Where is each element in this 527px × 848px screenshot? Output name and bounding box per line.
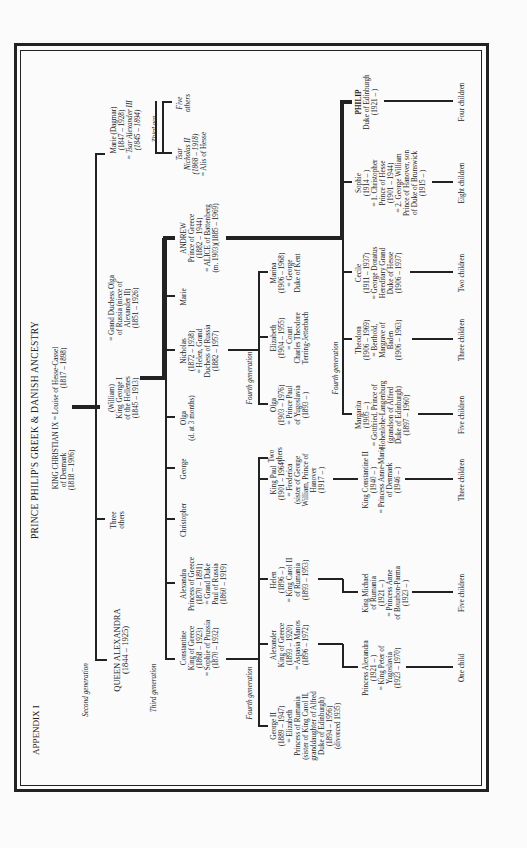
person-line: Nicholas II [184,132,192,176]
connector [165,519,175,521]
person-line: (1921 – ) [371,74,379,129]
person-line: (1889 – 1947) [278,691,286,760]
princess-alexandra-of-yugoslavia: Princess Alexandra (1921 – ) = King Pete… [362,640,402,695]
page-title: PRINCE PHILIP'S GREEK & DANISH ANCESTRY [31,321,39,539]
person-line: (sister of King Carol II, [302,691,310,760]
george-ii: George II (1889 – 1947) = Elizabeth Prin… [270,691,342,760]
person-line: Nicholas [180,324,188,377]
person-line: (1893 – ) [302,385,310,426]
person-line: (1882 – 1944) [196,203,204,272]
olga-infant: Olga (d. at 3 months) [180,395,196,441]
person-line: Tsar [176,132,184,176]
person-line: Three [110,511,118,529]
person-line: (1923 – ) [402,566,410,620]
person-line: (1851 – 1926) [132,275,140,341]
children-count: Four children [458,83,466,122]
person-line: = Helen, Grand [196,324,204,377]
connector [162,102,164,154]
person-line: Marie (Dagmar) [110,100,118,159]
connector [140,376,166,380]
person-line: (1893 – 1920) [286,620,294,670]
person-line: Hanover [310,453,318,506]
person-line: (1914 – ) [363,150,371,216]
connector [406,667,453,669]
connector [432,182,453,184]
christopher: Christopher [180,503,188,537]
connector [258,272,260,405]
connector [342,238,344,415]
king-george-i: (William) King George I of the Hellenes … [108,376,140,420]
children-count: Eight children [458,163,466,204]
person-line: (1894 – 1956) [326,691,334,760]
connector [165,350,175,352]
person-line: King of Greece [278,620,286,670]
connector-andrew-children [226,236,344,240]
person-line: (1845 – 1894) [134,100,142,159]
philip-duke-of-edinburgh: PHILIP Duke of Edinburgh (1921 – ) [355,74,379,129]
person-line: (1845 – 1913) [132,376,140,420]
cecile: Cecile (1911 – 1937) = George Donatus He… [355,247,403,300]
two-others: Two others [268,447,284,465]
person-line: (1870 – 1932) [212,620,220,676]
connector-philip [340,100,352,104]
person-line: of Denmark [60,450,68,491]
person-line: (1896 – 1972) [302,620,310,670]
marie-dagmar: Marie (Dagmar) (1847 – 1928) = Tsar Alex… [110,100,142,159]
connector [318,579,343,581]
person-line: (1917 – ) [318,453,326,506]
connector [165,468,175,470]
person-line: (d. at 3 months) [188,395,196,441]
person-line: Alexander II) [124,275,132,341]
person-line: = 2. George William [395,150,403,216]
person-line: granddaughter of Alfred [310,691,318,760]
andrew: ANDREW Prince of Greece (1882 – 1944) = … [180,203,220,272]
connector [258,272,268,274]
king-constantine-ii: King Constantine II (1940 – ) = Princess… [362,447,402,513]
person-line: others [118,511,126,529]
person-line: King George I [116,376,124,420]
nicholas: Nicholas (1872 – 1938) = Helen, Grand Du… [180,324,220,377]
person-line: (1901 – 1944) [387,150,395,216]
person-line: ANDREW [180,203,188,272]
label-fourth-generation: Fourth generation [246,667,254,720]
person-line: (William) [108,376,116,420]
person-line: Duke of Edinburgh) [395,381,403,450]
person-line: Alexander [270,620,278,670]
person-line: (divorced 1935) [334,691,342,760]
person-line: (1921 – ) [378,566,386,620]
person-line: Terring-Jetterbach [302,312,310,365]
person-line: (1911 – 1937) [363,247,371,300]
person-line: Olga [180,395,188,441]
children-count: Two children [458,254,466,292]
person-line: Cecile [355,247,363,300]
person-line: Helen [270,558,278,603]
connector [165,417,175,419]
person-line: Alexandra [180,557,188,611]
connector [342,414,352,416]
connector-philip-line [340,102,344,240]
person-line: = King Peter of [378,640,386,695]
connector [418,414,453,416]
person-line: King of Greece [188,620,196,676]
person-line: Constantine [180,620,188,676]
person-line: of Yugoslavia [294,385,302,426]
connector [405,479,453,481]
person-line: Duke of Edinburgh) [318,691,326,760]
person-line: (1906 – 1968) [278,253,286,294]
person-line: of Denmark [386,447,394,513]
person-line: Prince of Greece [188,203,196,272]
person-line: (1870 – 1891) [196,557,204,611]
person-line: of Russia (niece of [116,275,124,341]
person-line: (1896 – ) [278,558,286,603]
person-line: (1868 – 1923) [196,620,204,676]
person-line: (1921 – ) [370,640,378,695]
person-line: = Aspasia Manos [294,620,302,670]
person-line: (1818 – 1906) [68,450,76,491]
connector [342,182,352,184]
person-line: = Gottfried, Prince of [371,381,379,450]
king-michael: King Michael of Rumania (1921 – ) = Prin… [362,566,410,620]
person-line: (1860 – 1919) [220,557,228,611]
olga-of-greece: Olga (1903 – 1976) = Prince Paul of Yugo… [270,385,310,426]
constantine-i: Constantine King of Greece (1868 – 1923)… [180,620,220,676]
children-count: Three children [458,319,466,361]
